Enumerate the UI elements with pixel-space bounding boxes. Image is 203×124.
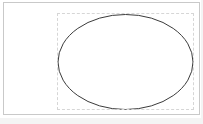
screenshot-root <box>0 0 203 124</box>
document-frame[interactable] <box>3 2 200 115</box>
page-shade-bottom <box>0 118 203 124</box>
selection-bounding-box[interactable] <box>57 13 194 110</box>
drawing-area[interactable] <box>4 3 199 114</box>
page-shade-right <box>201 0 203 124</box>
